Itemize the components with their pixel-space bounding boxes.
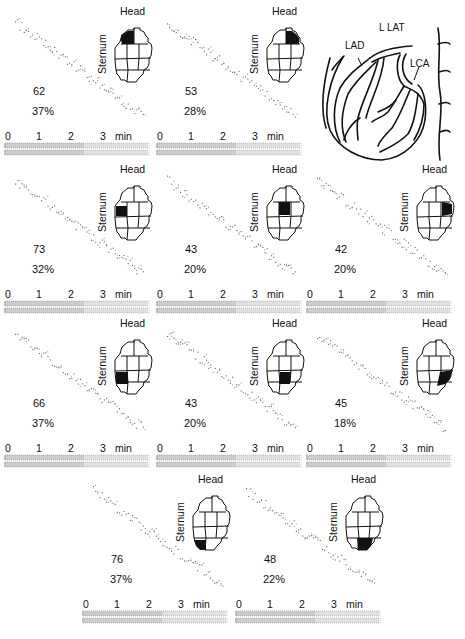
tick-0: 0 xyxy=(83,598,89,610)
panel-percent: 18% xyxy=(334,418,356,429)
head-label: Head xyxy=(422,318,447,329)
panel-value: 53 xyxy=(185,86,197,97)
panel-value: 43 xyxy=(185,398,197,409)
panel-value: 48 xyxy=(264,554,276,565)
heart-segment-map-icon xyxy=(188,490,240,554)
tick-3: 3 xyxy=(252,288,258,300)
tick-2: 2 xyxy=(68,288,74,300)
coronary-diagram: L LAT LAD LCA xyxy=(300,0,465,165)
tick-1: 1 xyxy=(36,442,42,454)
panel-percent: 32% xyxy=(32,264,54,275)
tick-1: 1 xyxy=(36,288,42,300)
panel-value: 62 xyxy=(33,86,45,97)
tick-2: 2 xyxy=(68,130,74,142)
time-unit-label: min xyxy=(417,442,434,454)
panel-8: Head Sternum 45 18% 0 1 2 3 min xyxy=(307,312,455,472)
panel-value: 73 xyxy=(33,244,45,255)
time-unit-label: min xyxy=(267,130,284,142)
tick-2: 2 xyxy=(146,598,152,610)
head-label: Head xyxy=(272,318,297,329)
panel-7: Head Sternum 43 20% 0 1 2 3 min xyxy=(157,312,305,472)
tick-0: 0 xyxy=(157,130,163,142)
time-scale-bar xyxy=(157,455,301,468)
time-unit-label: min xyxy=(193,598,210,610)
tick-0: 0 xyxy=(5,288,11,300)
tick-2: 2 xyxy=(68,442,74,454)
sternum-label: Sternum xyxy=(174,502,186,542)
panel-percent: 37% xyxy=(32,106,54,117)
time-unit-label: min xyxy=(115,288,132,300)
tick-3: 3 xyxy=(402,288,408,300)
panel-5: Head Sternum 42 20% 0 1 2 3 min xyxy=(307,158,455,318)
tick-1: 1 xyxy=(338,288,344,300)
tick-0: 0 xyxy=(157,288,163,300)
tick-3: 3 xyxy=(402,442,408,454)
sternum-label: Sternum xyxy=(96,34,108,74)
tick-2: 2 xyxy=(299,598,305,610)
panel-percent: 20% xyxy=(184,264,206,275)
panel-percent: 20% xyxy=(334,264,356,275)
tick-0: 0 xyxy=(236,598,242,610)
heart-segment-map xyxy=(110,180,162,244)
time-unit-label: min xyxy=(267,288,284,300)
time-unit-label: min xyxy=(346,598,363,610)
view-label: L LAT xyxy=(379,22,405,33)
head-label: Head xyxy=(272,164,297,175)
heart-segment-map xyxy=(110,22,162,86)
head-label: Head xyxy=(120,164,145,175)
time-unit-label: min xyxy=(417,288,434,300)
panel-value: 42 xyxy=(335,244,347,255)
lad-label: LAD xyxy=(345,40,364,51)
tick-3: 3 xyxy=(252,442,258,454)
time-unit-label: min xyxy=(115,442,132,454)
sternum-label: Sternum xyxy=(327,502,339,542)
time-unit-label: min xyxy=(115,130,132,142)
sternum-label: Sternum xyxy=(398,346,410,386)
tick-3: 3 xyxy=(100,442,106,454)
panel-1: Head Sternum 62 37% 0 1 2 3 min xyxy=(5,0,153,160)
sternum-label: Sternum xyxy=(248,346,260,386)
tick-1: 1 xyxy=(267,598,273,610)
panel-percent: 37% xyxy=(32,418,54,429)
sternum-label: Sternum xyxy=(398,192,410,232)
tick-2: 2 xyxy=(370,288,376,300)
tick-2: 2 xyxy=(370,442,376,454)
tick-1: 1 xyxy=(188,442,194,454)
time-unit-label: min xyxy=(267,442,284,454)
heart-segment-map xyxy=(412,334,464,398)
sternum-label: Sternum xyxy=(96,346,108,386)
panel-value: 66 xyxy=(33,398,45,409)
tick-0: 0 xyxy=(307,442,313,454)
time-scale-bar xyxy=(307,455,451,468)
panel-4: Head Sternum 43 20% 0 1 2 3 min xyxy=(157,158,305,318)
heart-segment-map-icon xyxy=(412,334,464,398)
tick-3: 3 xyxy=(100,130,106,142)
time-scale-bar xyxy=(5,143,149,156)
heart-segment-map-icon xyxy=(412,180,464,244)
panel-value: 43 xyxy=(185,244,197,255)
tick-3: 3 xyxy=(178,598,184,610)
tick-2: 2 xyxy=(220,288,226,300)
tick-1: 1 xyxy=(36,130,42,142)
panel-value: 76 xyxy=(111,554,123,565)
panel-9: Head Sternum 76 37% 0 1 2 3 min xyxy=(83,468,231,628)
sternum-label: Sternum xyxy=(248,34,260,74)
panel-10: Head Sternum 48 22% 0 1 2 3 min xyxy=(236,468,384,628)
panel-value: 45 xyxy=(335,398,347,409)
heart-segment-map-icon xyxy=(110,22,162,86)
sternum-label: Sternum xyxy=(96,192,108,232)
tick-3: 3 xyxy=(100,288,106,300)
lca-label: LCA xyxy=(410,58,429,69)
time-scale-bar xyxy=(157,143,301,156)
tick-1: 1 xyxy=(338,442,344,454)
tick-0: 0 xyxy=(5,442,11,454)
heart-segment-map xyxy=(341,490,393,554)
heart-segment-map xyxy=(412,180,464,244)
panel-percent: 37% xyxy=(110,574,132,585)
tick-1: 1 xyxy=(188,288,194,300)
heart-segment-map-icon xyxy=(341,490,393,554)
tick-3: 3 xyxy=(252,130,258,142)
tick-1: 1 xyxy=(188,130,194,142)
panel-percent: 28% xyxy=(184,106,206,117)
sternum-label: Sternum xyxy=(248,192,260,232)
